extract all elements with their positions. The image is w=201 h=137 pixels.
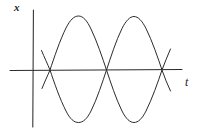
vertical-axis-label: x xyxy=(14,2,20,13)
horizontal-axis-line xyxy=(10,70,182,71)
horizontal-axis-label: t xyxy=(185,76,188,88)
vertical-axis-line xyxy=(33,10,34,127)
standing-wave-figure: x t xyxy=(0,0,201,137)
figure-canvas xyxy=(0,0,201,137)
